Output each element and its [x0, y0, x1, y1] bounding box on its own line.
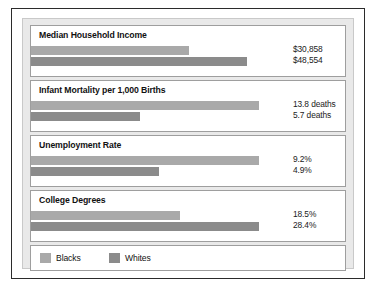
legend-label-whites: Whites [125, 253, 151, 263]
chart-legend: Blacks Whites [30, 245, 346, 271]
section-title: College Degrees [39, 195, 106, 205]
bar-blacks [31, 101, 259, 110]
legend-label-blacks: Blacks [56, 253, 81, 263]
bar-value-whites: 28.4% [293, 220, 316, 230]
bar-blacks [31, 46, 189, 55]
legend-swatch-blacks [40, 253, 51, 263]
legend-swatch-whites [109, 253, 120, 263]
bar-whites [31, 222, 259, 231]
bar-value-blacks: 9.2% [293, 154, 312, 164]
bar-value-blacks: 18.5% [293, 209, 316, 219]
bar-whites [31, 167, 159, 176]
bar-value-whites: $48,554 [293, 55, 323, 65]
bar-whites [31, 112, 140, 121]
chart-section-median-household-income: Median Household Income $30,858 $48,554 [30, 25, 346, 77]
bar-whites [31, 57, 247, 66]
bar-blacks [31, 156, 259, 165]
bar-value-blacks: 13.8 deaths [293, 99, 336, 109]
legend-item-whites: Whites [109, 253, 151, 263]
chart-section-unemployment-rate: Unemployment Rate 9.2% 4.9% [30, 135, 346, 187]
bar-value-whites: 5.7 deaths [293, 110, 331, 120]
figure-outer-frame: Median Household Income $30,858 $48,554 … [11, 8, 365, 279]
bar-blacks [31, 211, 180, 220]
chart-section-college-degrees: College Degrees 18.5% 28.4% [30, 190, 346, 242]
chart-panel: Median Household Income $30,858 $48,554 … [22, 18, 354, 269]
section-title: Median Household Income [39, 30, 147, 40]
bar-value-whites: 4.9% [293, 165, 312, 175]
section-title: Unemployment Rate [39, 140, 121, 150]
legend-item-blacks: Blacks [40, 253, 81, 263]
bar-value-blacks: $30,858 [293, 44, 323, 54]
chart-section-infant-mortality: Infant Mortality per 1,000 Births 13.8 d… [30, 80, 346, 132]
chart-screenshot: Median Household Income $30,858 $48,554 … [0, 0, 379, 289]
section-title: Infant Mortality per 1,000 Births [39, 85, 166, 95]
